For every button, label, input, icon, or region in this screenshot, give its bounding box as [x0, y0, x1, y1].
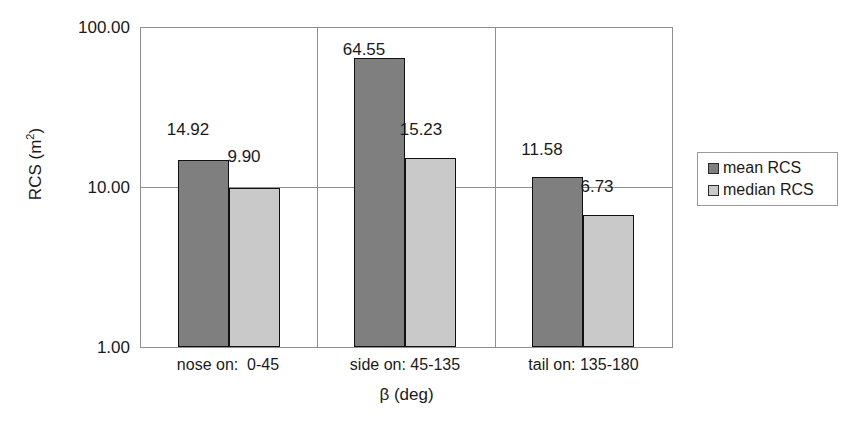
value-label-mean-side-on: 64.55	[328, 41, 400, 58]
y-tick-label-10: 10.00	[52, 179, 130, 196]
legend-swatch-mean-icon	[708, 163, 719, 174]
x-tick-label-side-on: side on: 45-135	[316, 356, 494, 374]
x-axis-title: β (deg)	[140, 385, 673, 405]
y-axis-title-text: RCS (m	[26, 140, 45, 200]
legend-item-median-rcs[interactable]: median RCS	[708, 182, 814, 198]
bar-mean-tail-on[interactable]	[532, 177, 583, 347]
y-axis-title-close-paren: )	[26, 128, 45, 134]
bar-median-nose-on[interactable]	[229, 188, 280, 347]
x-tick-label-nose-on: nose on: 0-45	[140, 356, 316, 374]
bar-median-tail-on[interactable]	[583, 215, 634, 347]
legend-label-median-rcs: median RCS	[723, 182, 814, 198]
category-separator-2	[495, 28, 496, 347]
y-tick-label-1: 1.00	[52, 339, 130, 356]
value-label-median-side-on: 15.23	[385, 121, 457, 138]
bar-mean-nose-on[interactable]	[178, 160, 229, 347]
bar-mean-side-on[interactable]	[354, 58, 405, 347]
legend-item-mean-rcs[interactable]: mean RCS	[708, 160, 801, 176]
value-label-mean-nose-on: 14.92	[152, 121, 224, 138]
x-tick-label-tail-on: tail on: 135-180	[494, 356, 673, 374]
value-label-median-tail-on: 6.73	[564, 178, 630, 195]
value-label-median-nose-on: 9.90	[211, 148, 277, 165]
category-separator-1	[317, 28, 318, 347]
legend-label-mean-rcs: mean RCS	[723, 160, 801, 176]
legend-swatch-median-icon	[708, 185, 719, 196]
bar-median-side-on[interactable]	[405, 158, 456, 347]
y-axis-title-superscript: 2	[24, 134, 36, 140]
rcs-bar-chart: RCS (m2) 100.00 10.00 1.00 14.92 9.90 64…	[0, 0, 862, 431]
y-tick-label-100: 100.00	[52, 19, 130, 36]
value-label-mean-tail-on: 11.58	[506, 141, 578, 158]
legend: mean RCS median RCS	[697, 152, 838, 206]
y-axis-title: RCS (m2)	[26, 84, 46, 244]
